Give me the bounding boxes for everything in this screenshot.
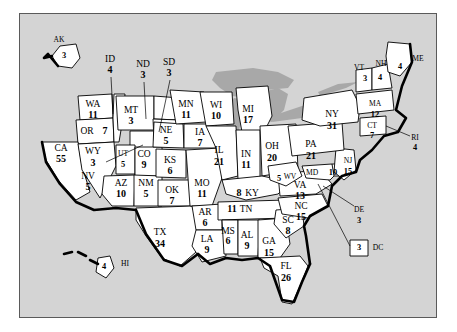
state-votes-FL: 26 xyxy=(281,272,291,283)
state-label-NJ: NJ xyxy=(344,156,352,165)
state-label-AK: AK xyxy=(54,35,65,44)
state-label-DC: DC xyxy=(373,243,384,252)
state-label-VT: VT xyxy=(354,63,364,72)
state-label-AR: AR xyxy=(198,207,212,217)
state-votes-NM: 5 xyxy=(144,188,149,199)
state-label-NC: NC xyxy=(294,201,307,211)
state-label-AL: AL xyxy=(241,230,254,240)
state-votes-MN: 11 xyxy=(181,109,190,120)
state-votes-SC: 8 xyxy=(286,225,291,236)
state-votes-NE: 5 xyxy=(164,135,169,146)
state-votes-NC: 15 xyxy=(296,211,306,222)
state-votes-TN: 11 xyxy=(227,203,236,214)
state-label-DE: DE xyxy=(354,205,364,214)
state-label-WI: WI xyxy=(210,100,222,110)
state-votes-NY: 31 xyxy=(327,120,337,131)
state-votes-MA: 12 xyxy=(371,110,379,119)
state-label-PA: PA xyxy=(305,139,316,149)
state-votes-VT: 3 xyxy=(363,74,367,83)
state-votes-OK: 7 xyxy=(170,195,175,206)
state-votes-IA: 7 xyxy=(198,137,203,148)
state-label-WV: WV xyxy=(284,172,297,181)
state-votes-OR: 7 xyxy=(103,125,108,136)
state-label-NM: NM xyxy=(138,178,154,188)
state-label-NV: NV xyxy=(81,171,95,181)
state-label-NH: NH xyxy=(376,59,387,68)
state-votes-AR: 6 xyxy=(203,217,208,228)
state-votes-KS: 6 xyxy=(168,165,173,176)
state-label-OH: OH xyxy=(265,141,279,151)
state-label-MA: MA xyxy=(369,99,382,108)
state-votes-MS: 6 xyxy=(226,235,231,246)
state-label-HI: HI xyxy=(121,259,129,268)
state-votes-AZ: 10 xyxy=(116,188,126,199)
state-label-RI: RI xyxy=(411,133,419,142)
state-label-ND: ND xyxy=(136,59,150,69)
state-label-ME: ME xyxy=(412,54,424,63)
state-label-OK: OK xyxy=(165,185,179,195)
state-votes-GA: 15 xyxy=(264,247,274,258)
state-votes-RI: 4 xyxy=(413,143,418,152)
state-label-NY: NY xyxy=(325,109,339,119)
state-label-CT: CT xyxy=(367,121,377,130)
state-label-SD: SD xyxy=(163,57,175,67)
state-label-ID: ID xyxy=(105,54,115,64)
state-label-WA: WA xyxy=(86,99,101,109)
state-votes-WI: 10 xyxy=(211,110,221,121)
state-votes-DC: 3 xyxy=(357,243,361,252)
state-label-KY: KY xyxy=(245,188,259,198)
state-votes-PA: 21 xyxy=(306,150,316,161)
state-votes-ND: 3 xyxy=(141,69,146,80)
state-votes-LA: 9 xyxy=(205,244,210,255)
state-label-MT: MT xyxy=(124,105,138,115)
state-label-VA: VA xyxy=(294,180,307,190)
state-label-TX: TX xyxy=(154,227,167,237)
state-votes-CT: 7 xyxy=(370,131,374,140)
us-electoral-map-svg: AK3HI4WA11OR7CA55NV5ID4MT3WY3UT5AZ10NM5C… xyxy=(20,14,438,319)
state-label-OR: OR xyxy=(80,126,94,136)
state-label-WY: WY xyxy=(85,146,101,156)
state-votes-VA: 13 xyxy=(295,190,305,201)
state-label-CO: CO xyxy=(137,149,150,159)
state-votes-DE: 3 xyxy=(357,216,361,225)
state-votes-NV: 5 xyxy=(86,181,91,192)
state-label-TN: TN xyxy=(240,204,253,214)
state-votes-UT: 5 xyxy=(121,160,125,169)
state-votes-MT: 3 xyxy=(129,115,134,126)
state-label-MO: MO xyxy=(194,178,209,188)
state-votes-WV: 5 xyxy=(277,174,281,183)
state-label-KS: KS xyxy=(164,155,176,165)
state-votes-IL: 21 xyxy=(214,156,224,167)
state-votes-IN: 11 xyxy=(241,159,250,170)
state-label-IN: IN xyxy=(241,149,251,159)
state-votes-NJ: 15 xyxy=(344,167,352,176)
state-label-AZ: AZ xyxy=(115,178,128,188)
state-votes-SD: 3 xyxy=(167,67,172,78)
state-label-FL: FL xyxy=(280,261,291,271)
state-votes-KY: 8 xyxy=(237,187,242,198)
state-label-LA: LA xyxy=(201,234,214,244)
hawaii-islands-line xyxy=(64,252,98,264)
state-votes-WA: 11 xyxy=(88,109,97,120)
state-label-MN: MN xyxy=(178,99,193,109)
state-votes-MI: 17 xyxy=(243,114,253,125)
state-votes-AL: 9 xyxy=(245,240,250,251)
state-label-IL: IL xyxy=(215,145,224,155)
state-votes-OH: 20 xyxy=(267,152,277,163)
state-votes-CA: 55 xyxy=(56,153,66,164)
state-label-MI: MI xyxy=(242,104,254,114)
state-label-NE: NE xyxy=(160,125,173,135)
state-votes-WY: 3 xyxy=(91,157,96,168)
state-votes-AK: 3 xyxy=(62,51,66,60)
state-label-CA: CA xyxy=(54,143,67,153)
state-votes-TX: 34 xyxy=(155,238,165,249)
state-label-IA: IA xyxy=(195,127,205,137)
state-shape-TX xyxy=(136,206,200,266)
state-label-MD: MD xyxy=(306,168,319,177)
state-votes-CO: 9 xyxy=(142,159,147,170)
state-votes-ID: 4 xyxy=(108,64,113,75)
state-votes-MD: 10 xyxy=(329,168,337,177)
state-label-UT: UT xyxy=(118,149,128,158)
state-votes-MO: 11 xyxy=(197,188,206,199)
state-label-SC: SC xyxy=(282,215,294,225)
